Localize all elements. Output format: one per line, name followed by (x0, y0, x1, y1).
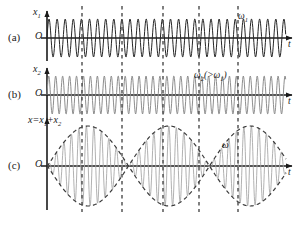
omega2-note: (>ω (204, 70, 220, 80)
t-axis-label-a: t (288, 39, 291, 49)
y-axis-label-c-text: x=x (28, 114, 44, 125)
origin-label-b: O (35, 87, 42, 98)
panel-b (41, 68, 292, 118)
y-axis-label-b: x2 (33, 63, 41, 76)
frequency-label-omega: ω (222, 140, 229, 150)
y-axis-label-c-sub2: 2 (58, 120, 61, 127)
panel-tag-c: (c) (8, 159, 20, 171)
t-axis-label-b: t (288, 96, 291, 106)
t-axis-label-c: t (288, 167, 291, 177)
y-axis-label-a: x1 (33, 6, 41, 19)
omega1-sub: 1 (245, 16, 248, 23)
omega2-symbol: ω (194, 70, 201, 80)
omega2-note-end: ) (224, 70, 227, 80)
waveform-plot (0, 0, 306, 225)
panel-tag-a: (a) (8, 31, 20, 43)
frequency-label-omega2: ω2(>ω1) (194, 70, 227, 82)
y-axis-label-c-mid: +x (47, 114, 58, 125)
panel-tag-b: (b) (8, 88, 21, 100)
beats-figure: (a) x1 O ω1 t (b) x2 O ω2(>ω1) t (c) x=x… (0, 0, 306, 225)
panel-c (41, 118, 292, 210)
origin-label-a: O (35, 30, 42, 41)
omega1-symbol: ω (238, 11, 245, 21)
origin-label-c: O (35, 158, 42, 169)
y-axis-label-a-sub: 1 (37, 12, 40, 19)
panel-a (41, 11, 292, 61)
y-axis-label-c: x=x1+x2 (28, 114, 61, 127)
y-axis-label-b-sub: 2 (37, 69, 40, 76)
frequency-label-omega1: ω1 (238, 11, 248, 23)
